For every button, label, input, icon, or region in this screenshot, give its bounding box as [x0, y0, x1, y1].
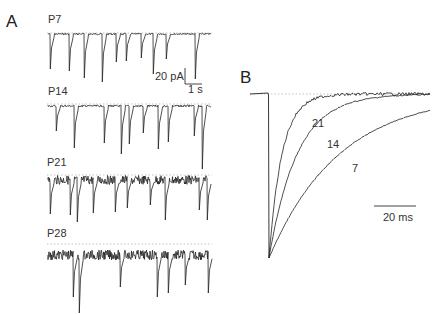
scalebars: [185, 68, 416, 206]
figure-canvas: [0, 0, 444, 314]
traces: [48, 33, 430, 313]
